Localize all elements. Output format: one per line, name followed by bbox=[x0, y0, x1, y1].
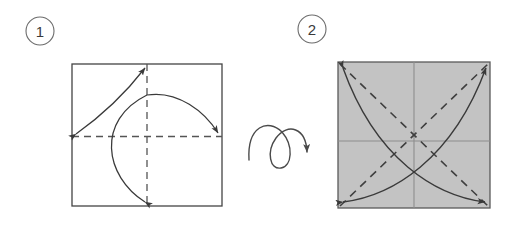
step-1-group: 1 bbox=[26, 17, 222, 206]
turn-over-loop-arrow bbox=[249, 125, 307, 168]
step-number-2-badge: 2 bbox=[298, 15, 326, 43]
turn-over-symbol bbox=[249, 125, 307, 168]
step-2-group: 2 bbox=[298, 15, 490, 208]
step-number-1-badge: 1 bbox=[26, 17, 54, 45]
step-number-label: 2 bbox=[308, 21, 316, 38]
step-number-label: 1 bbox=[36, 23, 44, 40]
origami-diagram: 1 2 bbox=[0, 0, 514, 228]
diagram-canvas: 1 2 bbox=[0, 0, 514, 228]
